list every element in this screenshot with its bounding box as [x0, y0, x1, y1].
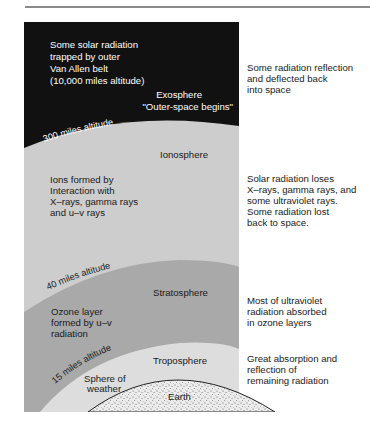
exosphere-note-line-4: (10,000 miles altitude)	[50, 75, 144, 86]
ionosphere-note-line-2: Interaction with	[50, 185, 115, 196]
ionosphere-side-note: Solar radiation loses X–rays, gamma rays…	[247, 173, 356, 228]
troposphere-note-line-2: weather	[86, 383, 122, 394]
ionosphere-note-line-3: X–rays, gamma rays	[50, 196, 138, 207]
exosphere-label: Exosphere	[156, 89, 202, 100]
earth-label: Earth	[168, 391, 191, 402]
stratosphere-note-line-1: Ozone layer	[51, 306, 104, 317]
exosphere-note-line-2: trapped by outer	[50, 51, 121, 62]
exosphere-side-note: Some radiation reflection and deflected …	[247, 62, 353, 95]
ionosphere-note-line-4: and u–v rays	[50, 207, 105, 218]
exosphere-subtitle: "Outer-space begins"	[142, 101, 233, 112]
stratosphere-label: Stratosphere	[153, 287, 208, 298]
ionosphere-label: Ionosphere	[160, 149, 208, 160]
troposphere-side-note: Great absorption and reflection of remai…	[247, 353, 337, 386]
stratosphere-note-line-2: formed by u–v	[51, 317, 112, 328]
exosphere-note-line-3: Van Allen belt	[50, 63, 108, 74]
stratosphere-note-line-3: radiation	[51, 328, 88, 339]
exosphere-note-line-1: Some solar radiation	[50, 39, 138, 50]
ionosphere-note-line-1: Ions formed by	[50, 174, 114, 185]
troposphere-label: Troposphere	[153, 355, 207, 366]
stratosphere-side-note: Most of ultraviolet radiation absorbed i…	[247, 295, 326, 328]
